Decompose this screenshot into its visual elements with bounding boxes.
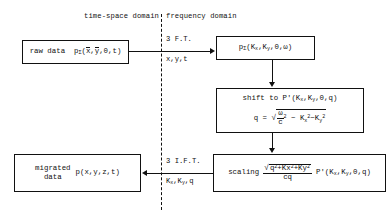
- domain-divider-dashed-line: [161, 14, 162, 210]
- shift-line2-equation: q = √ωc2 − Kx2−Ky2: [254, 109, 327, 127]
- flowchart-diagram: time-space domain frequency domain raw d…: [0, 0, 389, 220]
- edge-shift-to-scaling-arrowhead: [269, 148, 275, 153]
- node-raw-data[interactable]: raw data pΣ(x,y,0,t): [22, 40, 129, 64]
- caption-frequency-domain: frequency domain: [166, 12, 237, 20]
- node-shift-operation[interactable]: shift to P'(Kx,Ky,0,q) q = √ωc2 − Kx2−Ky…: [216, 88, 364, 133]
- scaling-expression: scaling √q2+Kx2+Ky2 cq P'(Kx,Ky,0,q): [228, 164, 371, 182]
- edge-label-forward-bottom: x,y,t: [166, 55, 188, 63]
- edge-label-inverse-bottom: Kx,Ky,q: [166, 177, 193, 185]
- edge-inverse-transform-line: [147, 173, 213, 174]
- edge-spectrum-to-shift-arrowhead: [269, 82, 275, 87]
- node-fourier-spectrum[interactable]: pΣ(Kx,Ky,0,ω): [216, 36, 315, 60]
- shift-line1: shift to P'(Kx,Ky,0,q): [243, 94, 338, 104]
- edge-label-forward-top: 3 F.T.: [166, 35, 192, 43]
- scaling-tail: P'(Kx,Ky,0,q): [316, 168, 371, 178]
- edge-label-inverse-top: 3 I.F.T.: [166, 157, 201, 165]
- edge-shift-to-scaling-line: [272, 133, 273, 149]
- node-scaling-operation[interactable]: scaling √q2+Kx2+Ky2 cq P'(Kx,Ky,0,q): [213, 154, 386, 192]
- node-migrated-data[interactable]: migrated data p(x,y,z,t): [14, 154, 141, 192]
- caption-time-space-domain: time-space domain: [84, 12, 159, 20]
- spectrum-expression: pΣ(Kx,Ky,0,ω): [239, 43, 292, 53]
- edge-inverse-transform-arrowhead: [142, 170, 147, 176]
- migrated-label: migrated data: [35, 164, 70, 183]
- scaling-fraction: √q2+Kx2+Ky2 cq: [263, 164, 312, 182]
- raw-data-expression: raw data pΣ(x,y,0,t): [30, 47, 122, 57]
- edge-spectrum-to-shift-line: [272, 60, 273, 83]
- edge-forward-transform-line: [129, 51, 211, 52]
- migrated-expression: p(x,y,z,t): [76, 168, 120, 177]
- edge-forward-transform-arrowhead: [210, 48, 215, 54]
